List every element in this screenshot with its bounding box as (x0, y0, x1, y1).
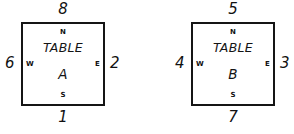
table-label-a: TABLE A (23, 42, 103, 81)
table-unit-b: 5 4 3 7 N W E S TABLE B (147, 0, 294, 134)
compass-south-label-a: S (23, 92, 103, 99)
table-word-b: TABLE (213, 40, 253, 55)
compass-north-label-b: N (193, 29, 273, 36)
table-unit-a: 8 6 2 1 N W E S TABLE A (0, 0, 147, 134)
table-label-b: TABLE B (193, 42, 273, 81)
table-letter-a: A (23, 68, 103, 82)
table-letter-b: B (193, 68, 273, 82)
compass-north-label-a: N (23, 29, 103, 36)
edge-number-east-a: 2 (110, 56, 120, 71)
table-compass-diagram: 8 6 2 1 N W E S TABLE A 5 4 3 7 N W E S … (0, 0, 294, 134)
compass-south-label-b: S (193, 92, 273, 99)
edge-number-west-a: 6 (5, 56, 15, 71)
edge-number-north-a: 8 (21, 2, 105, 17)
edge-number-north-b: 5 (191, 2, 275, 17)
edge-number-west-b: 4 (175, 56, 185, 71)
edge-number-south-b: 7 (191, 110, 275, 125)
table-box-a: N W E S TABLE A (21, 22, 105, 106)
table-box-b: N W E S TABLE B (191, 22, 275, 106)
edge-number-south-a: 1 (21, 110, 105, 125)
edge-number-east-b: 3 (280, 56, 290, 71)
table-word-a: TABLE (43, 40, 83, 55)
